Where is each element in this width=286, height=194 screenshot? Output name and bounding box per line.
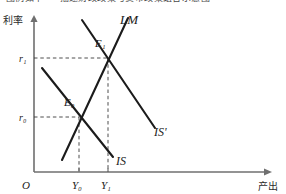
guide-lines-group — [34, 58, 108, 172]
x-tick-label-y1: Y₁ — [101, 179, 111, 191]
is-prime-curve-label: IS' — [153, 125, 167, 139]
figure-root: 图例如下 — 描述财政政策与货币政策组合示意图 LM — [0, 0, 286, 194]
y-axis-label: 利率 — [3, 14, 23, 26]
y-tick-label-r0: r₀ — [19, 112, 27, 123]
y-axis-arrowhead — [30, 15, 37, 22]
x-axis-arrowhead — [264, 168, 272, 175]
equilibrium-label-e1: E₁ — [94, 37, 106, 49]
equilibrium-label-e0: E₀ — [63, 96, 75, 108]
x-tick-label-y0: Y₀ — [72, 179, 82, 191]
y-tick-label-r1: r₁ — [19, 53, 26, 64]
is-curve — [42, 68, 113, 157]
is-curve-label: IS — [115, 154, 126, 168]
lm-curve-label: LM — [119, 12, 139, 27]
is-lm-chart: LM IS IS' E₀ E₁ r₁ r₀ Y₀ Y₁ O 利率 产出 — [0, 0, 286, 194]
origin-label: O — [22, 179, 30, 191]
x-axis-label: 产出 — [258, 180, 278, 192]
